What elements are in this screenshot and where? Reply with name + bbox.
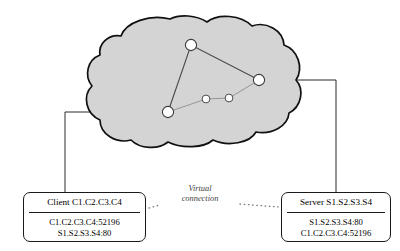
diagram-canvas: Virtual connection Client C1.C2.C3.C4 C1… bbox=[0, 0, 400, 251]
client-socket-remote: S1.S2.S3.S4:80 bbox=[30, 228, 139, 239]
server-endpoint-body: S1.S2.S3.S4:80 C1.C2.C3.C4:52196 bbox=[282, 213, 390, 242]
virtual-connection-label-line2: connection bbox=[163, 194, 237, 204]
client-socket-local: C1.C2.C3.C4:52196 bbox=[30, 217, 139, 228]
cloud-node-mid-1 bbox=[202, 95, 210, 103]
server-socket-remote: C1.C2.C3.C4:52196 bbox=[288, 228, 384, 239]
server-socket-local: S1.S2.S3.S4:80 bbox=[288, 217, 384, 228]
client-endpoint-body: C1.C2.C3.C4:52196 S1.S2.S3.S4:80 bbox=[24, 213, 145, 242]
virtual-connection-dotted-right bbox=[240, 204, 278, 207]
virtual-connection-label-line1: Virtual bbox=[163, 184, 237, 194]
cloud-node-left bbox=[162, 106, 173, 117]
cloud-node-top bbox=[185, 39, 196, 50]
cloud-node-right bbox=[253, 74, 264, 85]
virtual-connection-dotted-left bbox=[149, 205, 160, 208]
client-endpoint-box: Client C1.C2.C3.C4 C1.C2.C3.C4:52196 S1.… bbox=[23, 192, 146, 242]
cloud-node-mid-2 bbox=[225, 94, 233, 102]
server-endpoint-box: Server S1.S2.S3.S4 S1.S2.S3.S4:80 C1.C2.… bbox=[281, 192, 391, 242]
client-endpoint-header: Client C1.C2.C3.C4 bbox=[24, 193, 145, 212]
virtual-connection-label: Virtual connection bbox=[163, 184, 237, 205]
cloud-shape bbox=[86, 16, 300, 148]
server-endpoint-header: Server S1.S2.S3.S4 bbox=[282, 193, 390, 212]
